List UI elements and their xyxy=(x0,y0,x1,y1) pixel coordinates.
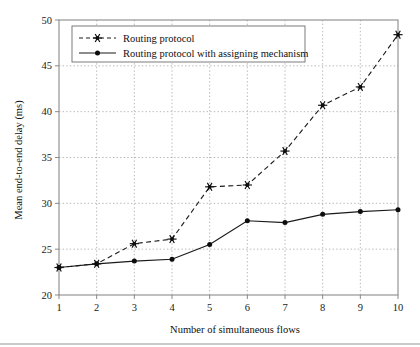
marker-circle xyxy=(245,218,250,223)
marker-star-core xyxy=(321,103,325,107)
marker-star-core xyxy=(283,149,287,153)
marker-circle xyxy=(358,209,363,214)
chart-figure: 20253035404550 12345678910 Routing proto… xyxy=(0,0,420,347)
y-tick-label: 35 xyxy=(42,152,53,163)
series-1 xyxy=(54,31,402,272)
series-line-solid xyxy=(59,210,398,268)
x-tick-label: 5 xyxy=(207,302,212,313)
y-tick-labels: 20253035404550 xyxy=(42,15,53,301)
marker-circle xyxy=(207,242,212,247)
chart-legend: Routing protocolRouting protocol with as… xyxy=(72,26,308,62)
marker-star-core xyxy=(208,185,212,189)
y-tick-label: 25 xyxy=(42,244,53,255)
marker-star-core xyxy=(396,33,400,37)
y-tick-label: 45 xyxy=(42,60,53,71)
x-tick-label: 4 xyxy=(169,302,175,313)
y-tick-label: 20 xyxy=(42,290,53,301)
x-tick-label: 6 xyxy=(245,302,250,313)
x-tick-label: 8 xyxy=(320,302,325,313)
marker-circle xyxy=(320,212,325,217)
y-tick-label: 30 xyxy=(42,198,53,209)
marker-star-core xyxy=(358,85,362,89)
marker-circle xyxy=(95,51,100,56)
marker-circle xyxy=(396,207,401,212)
data-series-layer xyxy=(54,31,402,272)
marker-star-core xyxy=(245,183,249,187)
legend-entry-label: Routing protocol with assigning mechanis… xyxy=(123,48,308,59)
marker-star-core xyxy=(96,36,100,40)
x-tick-label: 7 xyxy=(282,302,287,313)
marker-circle xyxy=(132,259,137,264)
marker-star xyxy=(318,101,327,109)
x-tick-label: 9 xyxy=(358,302,363,313)
marker-circle xyxy=(94,261,99,266)
legend-entry-label: Routing protocol xyxy=(123,33,195,44)
marker-circle xyxy=(170,257,175,262)
marker-circle xyxy=(283,220,288,225)
marker-star-core xyxy=(132,242,136,246)
x-axis-title: Number of simultaneous flows xyxy=(170,324,300,335)
x-tick-label: 10 xyxy=(393,302,404,313)
marker-circle xyxy=(57,265,62,270)
y-tick-label: 40 xyxy=(42,106,53,117)
x-tick-label: 1 xyxy=(56,302,61,313)
x-tick-label: 2 xyxy=(94,302,99,313)
y-tick-label: 50 xyxy=(42,15,53,26)
x-tick-label: 3 xyxy=(132,302,137,313)
line-chart: 20253035404550 12345678910 Routing proto… xyxy=(0,0,420,347)
x-tick-labels: 12345678910 xyxy=(56,302,403,313)
y-axis-title: Mean end-to-end delay (ms) xyxy=(13,100,25,220)
series-2 xyxy=(57,207,401,270)
marker-star-core xyxy=(170,237,174,241)
